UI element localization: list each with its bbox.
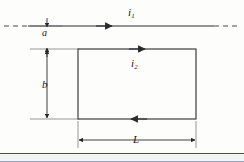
label-separation-a: a bbox=[42, 28, 47, 38]
footer-rule-secondary bbox=[0, 161, 244, 162]
figure-canvas bbox=[0, 0, 244, 162]
footer-rule bbox=[0, 153, 244, 154]
label-i2-subscript: 2 bbox=[134, 63, 137, 70]
physics-figure: i1 i2 a b L bbox=[0, 0, 244, 162]
label-loop-height-b: b bbox=[42, 79, 48, 90]
label-i1-subscript: 1 bbox=[131, 12, 134, 19]
label-current-i1: i1 bbox=[128, 7, 135, 20]
label-loop-width-L: L bbox=[133, 134, 139, 145]
label-current-i2: i2 bbox=[131, 58, 138, 71]
